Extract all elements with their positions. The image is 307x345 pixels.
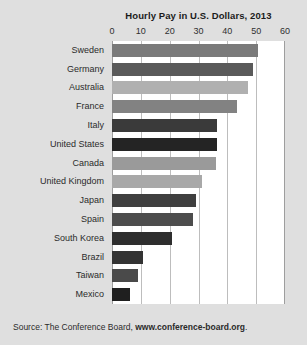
x-tick-label-60: 60: [280, 26, 290, 36]
category-label-south-korea: South Korea: [0, 233, 108, 243]
bar-south-korea: [112, 232, 172, 245]
bar-mexico: [112, 288, 130, 301]
bar-canada: [112, 157, 216, 170]
x-tick-label-40: 40: [222, 26, 232, 36]
source-prefix: Source: The Conference Board,: [13, 322, 135, 332]
category-label-japan: Japan: [0, 195, 108, 205]
bar-japan: [112, 194, 196, 207]
source-url[interactable]: www.conference-board.org: [135, 322, 245, 332]
bar-australia: [112, 81, 248, 94]
category-label-brazil: Brazil: [0, 252, 108, 262]
category-label-australia: Australia: [0, 82, 108, 92]
category-label-united-states: United States: [0, 139, 108, 149]
bar-sweden: [112, 44, 258, 57]
chart-figure: Hourly Pay in U.S. Dollars, 2013 0102030…: [0, 0, 307, 345]
category-label-italy: Italy: [0, 120, 108, 130]
bars-layer: [112, 41, 285, 304]
bar-brazil: [112, 251, 143, 264]
category-label-taiwan: Taiwan: [0, 270, 108, 280]
category-label-united-kingdom: United Kingdom: [0, 176, 108, 186]
bar-italy: [112, 119, 217, 132]
x-tick-label-0: 0: [109, 26, 114, 36]
bar-united-kingdom: [112, 175, 202, 188]
category-label-spain: Spain: [0, 214, 108, 224]
chart-title: Hourly Pay in U.S. Dollars, 2013: [112, 10, 285, 21]
category-label-sweden: Sweden: [0, 45, 108, 55]
x-axis-tick-labels: 0102030405060: [112, 26, 285, 40]
category-label-canada: Canada: [0, 158, 108, 168]
bar-france: [112, 100, 237, 113]
category-label-france: France: [0, 101, 108, 111]
bar-united-states: [112, 138, 217, 151]
x-tick-label-50: 50: [251, 26, 261, 36]
y-axis-category-labels: SwedenGermanyAustraliaFranceItalyUnited …: [0, 41, 108, 304]
bar-germany: [112, 63, 253, 76]
category-label-germany: Germany: [0, 64, 108, 74]
source-note: Source: The Conference Board, www.confer…: [13, 322, 247, 332]
source-suffix: .: [245, 322, 247, 332]
category-label-mexico: Mexico: [0, 289, 108, 299]
x-tick-label-20: 20: [165, 26, 175, 36]
x-tick-label-30: 30: [193, 26, 203, 36]
bar-taiwan: [112, 269, 138, 282]
bar-spain: [112, 213, 193, 226]
x-tick-label-10: 10: [136, 26, 146, 36]
